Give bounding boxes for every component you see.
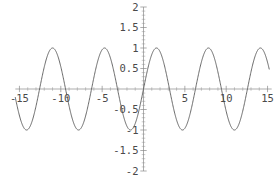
plot-figure: -15-10-551015 21.510.5-0.5-1-1.5-2 [0,0,279,191]
y-tick-label: 2 [132,1,138,13]
y-tick-label: 1.5 [120,21,139,33]
y-tick-label: -1.5 [113,144,138,156]
x-tick-label: 15 [261,92,274,104]
x-tick-label: 10 [220,92,233,104]
x-tick-label: -15 [10,92,29,104]
y-tick-label: 1 [132,42,138,54]
x-tick-label: 5 [182,92,188,104]
x-tick-label: -10 [51,92,70,104]
plot-canvas: -15-10-551015 21.510.5-0.5-1-1.5-2 [0,0,279,191]
y-tick-label: -0.5 [113,103,138,115]
y-tick-label: -1 [126,124,139,136]
x-tick-label: -5 [96,92,109,104]
y-tick-label: -2 [126,165,139,177]
y-tick-label: 0.5 [120,62,139,74]
